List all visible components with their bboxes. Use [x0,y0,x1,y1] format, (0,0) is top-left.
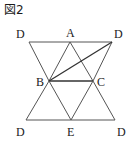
vertex-label-top-mid: A [66,26,75,40]
edge-E-C [71,81,93,120]
edge-B-E [49,81,71,120]
vertex-label-bottom-right: D [117,125,126,139]
vertex-label-bottom-mid: E [67,125,74,139]
vertex-label-top-left: D [16,27,25,41]
vertex-label-bottom-left: D [16,125,25,139]
geometry-diagram: D A D B C D E D [0,0,134,148]
vertex-label-mid-left: B [36,75,44,89]
figure-panel: 図2 D A D B C D E D [0,0,134,148]
vertex-label-mid-right: C [97,75,105,89]
vertex-label-top-right: D [114,27,123,41]
